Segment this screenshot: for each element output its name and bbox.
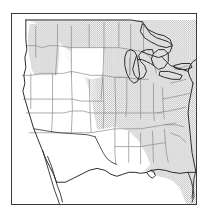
map-figure <box>0 0 210 221</box>
map-frame <box>11 13 197 205</box>
us-map-svg <box>12 14 196 204</box>
